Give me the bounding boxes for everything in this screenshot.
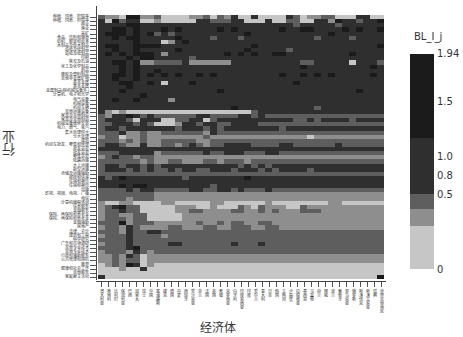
heatmap-cell	[119, 275, 126, 279]
heatmap-cell	[161, 275, 168, 279]
x-axis-ticks	[98, 282, 384, 288]
x-tick	[325, 282, 326, 287]
y-tick	[90, 236, 96, 237]
y-tick	[90, 178, 96, 179]
x-tick	[108, 282, 109, 287]
x-tick	[360, 282, 361, 287]
x-tick	[101, 282, 102, 287]
y-axis-title: 行业	[2, 130, 16, 156]
y-tick	[90, 34, 96, 35]
y-tick	[90, 124, 96, 125]
y-tick	[90, 157, 96, 158]
colorbar-segment	[410, 194, 434, 209]
heatmap-cell	[147, 275, 154, 279]
y-tick	[90, 120, 96, 121]
colorbar-tick-label: 1.5	[437, 96, 453, 107]
x-tick-label: 捷克	[162, 289, 166, 297]
colorbar-tick-label: 1.94	[437, 48, 459, 59]
y-tick	[90, 46, 96, 47]
y-tick	[90, 95, 96, 96]
heatmap-cell	[272, 275, 279, 279]
y-tick	[90, 38, 96, 39]
y-tick	[90, 104, 96, 105]
colorbar-segment	[410, 138, 434, 194]
heatmap-cell	[349, 275, 356, 279]
heatmap-cell	[98, 275, 105, 279]
x-tick-label: 卢森堡	[288, 289, 292, 301]
heatmap-cell	[258, 275, 265, 279]
x-tick	[115, 282, 116, 287]
x-tick	[157, 282, 158, 287]
heatmap-cell	[244, 275, 251, 279]
x-tick-label: 丹麦	[176, 289, 180, 297]
y-tick	[90, 100, 96, 101]
y-tick	[90, 75, 96, 76]
x-tick-label: 墨西哥	[302, 289, 306, 301]
x-tick-label: 德国	[169, 289, 173, 297]
x-tick	[304, 282, 305, 287]
y-tick	[90, 54, 96, 55]
x-tick-label: 加拿大	[134, 289, 138, 301]
x-tick-label: 日本	[267, 289, 271, 297]
x-tick	[276, 282, 277, 287]
heatmap-cell	[203, 275, 210, 279]
y-tick	[90, 133, 96, 134]
y-tick	[90, 273, 96, 274]
x-tick-label: 塞浦路斯	[155, 289, 159, 305]
x-tick	[185, 282, 186, 287]
x-tick-label: 比利时	[113, 289, 117, 301]
colorbar-segment	[410, 226, 434, 269]
x-tick	[374, 282, 375, 287]
colorbar-tick-label: 0.5	[437, 189, 453, 200]
y-tick	[90, 265, 96, 266]
colorbar-title: BL_I_j	[414, 31, 442, 42]
y-tick	[90, 137, 96, 138]
y-tick	[90, 269, 96, 270]
x-tick-label: 韩国	[274, 289, 278, 297]
y-tick	[90, 219, 96, 220]
x-tick	[381, 282, 382, 287]
y-tick	[90, 141, 96, 142]
x-tick-label: 意大利	[260, 289, 264, 301]
heatmap-cell	[300, 275, 307, 279]
x-tick	[143, 282, 144, 287]
x-tick-label: 保加利亚	[120, 289, 124, 305]
y-tick	[90, 79, 96, 80]
x-tick-label: 荷兰	[316, 289, 320, 297]
y-tick	[90, 116, 96, 117]
x-tick-label: 希腊	[218, 289, 222, 297]
x-tick	[234, 282, 235, 287]
x-tick	[248, 282, 249, 287]
x-tick-label: 澳大利亚	[99, 289, 103, 305]
x-tick-label: 斯洛文尼亚	[365, 289, 369, 309]
x-tick	[164, 282, 165, 287]
y-tick	[90, 232, 96, 233]
heatmap-cell	[126, 275, 133, 279]
x-tick	[213, 282, 214, 287]
x-tick-label: 芬兰	[197, 289, 201, 297]
y-tick	[90, 153, 96, 154]
y-tick	[90, 277, 96, 278]
heatmap-cell	[112, 275, 119, 279]
heatmap-cell	[154, 275, 161, 279]
heatmap-cell	[182, 275, 189, 279]
x-tick-label: 奥地利	[106, 289, 110, 301]
heatmap-cell	[307, 275, 314, 279]
y-tick	[90, 174, 96, 175]
x-tick	[227, 282, 228, 287]
y-tick	[90, 25, 96, 26]
x-tick-label: 匈牙利	[232, 289, 236, 301]
x-tick-label: 中国	[148, 289, 152, 297]
y-tick	[90, 170, 96, 171]
x-tick-label: 爱尔兰	[253, 289, 257, 301]
x-tick	[311, 282, 312, 287]
y-tick	[90, 128, 96, 129]
x-tick	[283, 282, 284, 287]
x-tick	[255, 282, 256, 287]
y-tick	[90, 182, 96, 183]
y-tick	[90, 215, 96, 216]
x-tick	[318, 282, 319, 287]
x-tick	[241, 282, 242, 287]
x-tick-label: 爱沙尼亚	[190, 289, 194, 305]
heatmap-cell	[279, 275, 286, 279]
